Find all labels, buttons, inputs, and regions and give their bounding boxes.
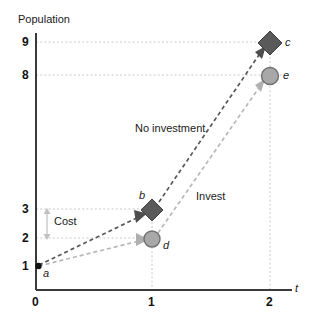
x-tick-label-1: 1 xyxy=(148,296,155,308)
series-label-invest: Invest xyxy=(196,191,225,202)
gridlines xyxy=(36,40,284,289)
cost-arrowhead-down xyxy=(44,234,51,240)
point-label-a: a xyxy=(43,268,49,279)
invest-segment-d-e xyxy=(158,82,263,233)
point-label-c: c xyxy=(285,37,291,48)
invest-segment-a-d xyxy=(39,240,143,266)
x-axis-title: t xyxy=(295,283,298,294)
point-label-e: e xyxy=(283,70,289,81)
series-label-no-investment: No investment xyxy=(135,123,205,134)
data-markers xyxy=(35,31,282,269)
cost-double-arrow xyxy=(44,208,51,240)
axes xyxy=(36,33,292,290)
y-tick-label-8: 8 xyxy=(22,69,29,81)
point-label-d: d xyxy=(163,240,169,251)
y-tick-label-1: 1 xyxy=(22,260,29,272)
chart-container: Population t 9 8 3 2 1 0 1 2 a b c d e N… xyxy=(0,0,313,321)
y-tick-label-9: 9 xyxy=(22,36,29,48)
point-label-b: b xyxy=(139,190,145,201)
marker-point-a[interactable] xyxy=(35,263,41,269)
cost-annotation-label: Cost xyxy=(54,216,77,227)
y-tick-label-3: 3 xyxy=(22,203,29,215)
x-tick-label-2: 2 xyxy=(266,296,273,308)
marker-point-d[interactable] xyxy=(144,231,160,247)
y-tick-label-2: 2 xyxy=(22,232,29,244)
y-axis-title: Population xyxy=(18,14,70,25)
marker-point-e[interactable] xyxy=(262,68,279,85)
x-tick-label-0: 0 xyxy=(32,296,39,308)
